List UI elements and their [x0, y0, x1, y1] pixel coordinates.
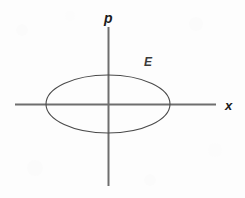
energy-curve-label: E: [144, 56, 152, 68]
position-axis-label: x: [225, 99, 232, 112]
momentum-axis-label: p: [104, 11, 113, 25]
phase-space-figure: p x E: [0, 0, 245, 198]
phase-space-diagram-canvas: [0, 0, 245, 198]
paper-texture: [0, 0, 245, 198]
